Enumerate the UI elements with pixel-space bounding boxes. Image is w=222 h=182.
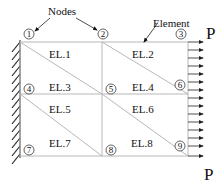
load-label-bottom: P xyxy=(204,165,213,182)
svg-text:6: 6 xyxy=(178,80,183,90)
node-1: 1 xyxy=(24,29,34,39)
node-6: 6 xyxy=(175,80,185,90)
node-8: 8 xyxy=(106,145,116,155)
element-label-2: EL.2 xyxy=(132,48,154,60)
fixed-support-hatching xyxy=(12,40,20,164)
nodes-callout-label: Nodes xyxy=(48,5,76,17)
fem-diagram: Nodes Element P P 1 2 3 4 5 6 xyxy=(0,0,222,182)
svg-text:5: 5 xyxy=(109,84,114,94)
node-5: 5 xyxy=(106,84,116,94)
mesh-grid xyxy=(20,42,188,156)
node-7: 7 xyxy=(24,145,34,155)
callout-leaders xyxy=(35,18,157,42)
distributed-load-arrows xyxy=(188,42,203,156)
element-label-4: EL.4 xyxy=(132,81,154,93)
element-label-6: EL.6 xyxy=(132,103,154,115)
node-3: 3 xyxy=(176,29,186,39)
svg-text:2: 2 xyxy=(101,29,106,39)
svg-text:8: 8 xyxy=(109,145,114,155)
element-label-8: EL.8 xyxy=(131,137,153,149)
element-label-1: EL.1 xyxy=(49,48,71,60)
svg-text:9: 9 xyxy=(178,141,183,151)
element-label-3: EL.3 xyxy=(49,81,71,93)
element-callout-label: Element xyxy=(153,17,190,29)
svg-text:7: 7 xyxy=(27,145,32,155)
element-label-7: EL.7 xyxy=(49,137,71,149)
element-label-5: EL.5 xyxy=(49,103,71,115)
node-9: 9 xyxy=(175,141,185,151)
svg-text:3: 3 xyxy=(179,29,184,39)
node-2: 2 xyxy=(98,29,108,39)
node-4: 4 xyxy=(24,84,34,94)
svg-text:1: 1 xyxy=(27,29,32,39)
load-label-top: P xyxy=(206,24,215,43)
svg-text:4: 4 xyxy=(27,84,32,94)
